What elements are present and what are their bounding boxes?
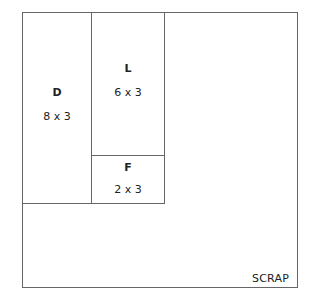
- piece-f-size: 2 x 3: [92, 183, 164, 196]
- piece-l-name: L: [92, 62, 164, 75]
- piece-l-size: 6 x 3: [92, 86, 164, 99]
- piece-l: L 6 x 3: [91, 12, 165, 156]
- piece-f: F 2 x 3: [91, 155, 165, 204]
- piece-f-name: F: [92, 161, 164, 174]
- scrap-label: SCRAP: [252, 272, 289, 285]
- piece-d: D 8 x 3: [22, 12, 92, 204]
- piece-d-name: D: [23, 86, 91, 99]
- piece-d-size: 8 x 3: [23, 110, 91, 123]
